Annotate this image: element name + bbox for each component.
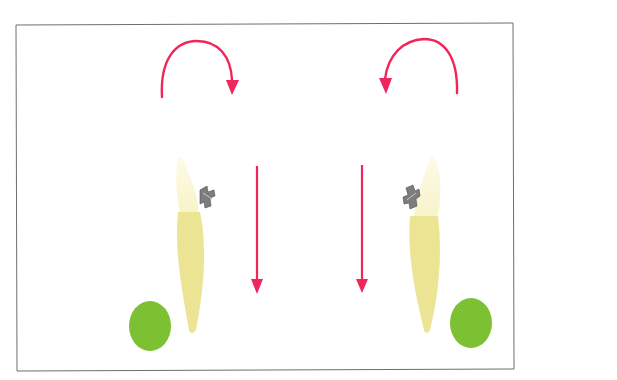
- right-green-circle: [450, 298, 492, 348]
- left-green-circle: [129, 301, 171, 351]
- orthodontic-diagram: [0, 0, 617, 380]
